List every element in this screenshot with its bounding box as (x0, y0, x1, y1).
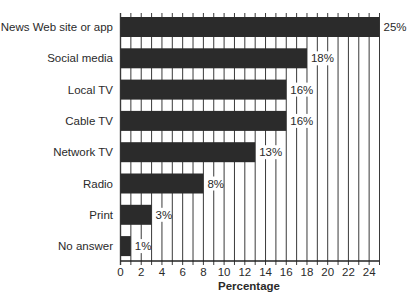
value-label: 1% (135, 240, 152, 252)
tick-label: 2 (138, 266, 144, 278)
tick-labels: 024681012141618202224 (117, 266, 376, 278)
tick-label: 20 (321, 266, 334, 278)
category-label: News Web site or app (1, 21, 113, 33)
value-label: 8% (207, 178, 224, 190)
bar (121, 111, 287, 131)
category-label: Cable TV (65, 115, 113, 127)
bar (121, 205, 152, 225)
bar (121, 236, 131, 256)
tick-label: 10 (218, 266, 231, 278)
value-label: 25% (384, 21, 407, 33)
tick-label: 6 (179, 266, 185, 278)
tick-label: 0 (117, 266, 123, 278)
category-label: No answer (58, 240, 113, 252)
value-label: 16% (290, 115, 313, 127)
value-label: 16% (290, 84, 313, 96)
value-label: 18% (311, 52, 334, 64)
bar (121, 48, 307, 68)
horizontal-bar-chart: News Web site or appSocial mediaLocal TV… (0, 0, 417, 295)
tick-label: 16 (280, 266, 293, 278)
tick-label: 14 (259, 266, 272, 278)
value-label: 3% (156, 209, 173, 221)
x-axis-title: Percentage (218, 280, 280, 292)
tick-label: 22 (342, 266, 355, 278)
category-label: Social media (47, 52, 113, 64)
bar (121, 174, 204, 194)
category-label: Radio (83, 178, 113, 190)
tick-label: 4 (159, 266, 166, 278)
tick-label: 24 (363, 266, 376, 278)
value-label: 13% (259, 146, 282, 158)
bar (121, 142, 256, 162)
bar (121, 17, 380, 37)
tick-label: 8 (200, 266, 206, 278)
category-label: Local TV (68, 84, 114, 96)
bar (121, 80, 287, 100)
category-labels: News Web site or appSocial mediaLocal TV… (1, 21, 114, 252)
tick-label: 12 (238, 266, 251, 278)
category-label: Network TV (53, 146, 113, 158)
category-label: Print (89, 209, 113, 221)
tick-label: 18 (301, 266, 314, 278)
